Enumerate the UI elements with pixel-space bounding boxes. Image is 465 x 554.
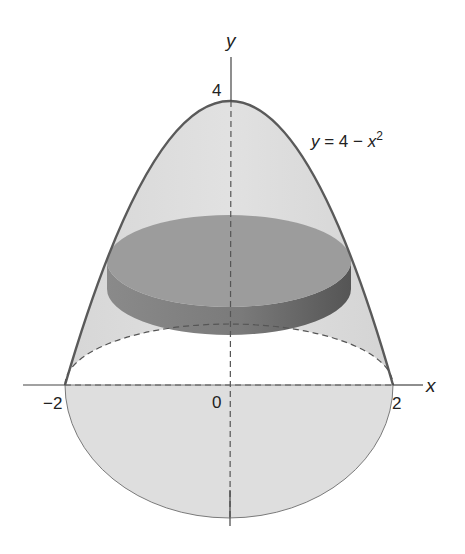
disk-top [107, 215, 351, 307]
tick-y-4: 4 [212, 81, 221, 100]
tick-x-neg-2: −2 [43, 394, 62, 413]
tick-x-2: 2 [392, 394, 401, 413]
tick-origin: 0 [212, 393, 221, 412]
x-axis-label: x [425, 375, 437, 396]
eq-exp: 2 [376, 129, 383, 143]
paraboloid-diagram: y x 4 −2 0 2 y = 4 − x2 [0, 0, 465, 554]
y-axis-label: y [224, 30, 237, 51]
curve-equation-label: y = 4 − x2 [310, 129, 383, 151]
base-ellipse-front [65, 385, 393, 518]
eq-var: x [367, 132, 377, 151]
eq-rhs: = 4 − [320, 132, 368, 151]
